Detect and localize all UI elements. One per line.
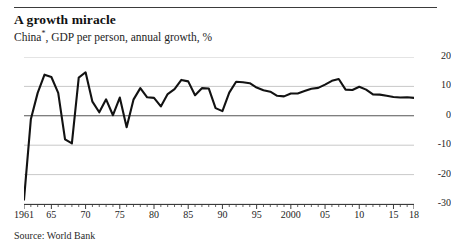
y-tick-label-20: 20 <box>415 51 451 61</box>
x-tick-label-1980: 80 <box>149 209 159 220</box>
x-tick-label-2000: 2000 <box>281 209 301 220</box>
x-tick-label-1970: 70 <box>81 209 91 220</box>
y-tick-label-10: 10 <box>415 80 451 90</box>
data-line-gdp-growth <box>24 72 414 199</box>
y-tick-label--30: -30 <box>415 198 451 208</box>
source-note: Source: World Bank <box>14 230 95 241</box>
plot-area <box>24 57 414 204</box>
y-tick-label-0: 0 <box>415 110 451 120</box>
chart-subtitle: China*, GDP per person, annual growth, % <box>14 29 212 43</box>
y-tick-label--10: -10 <box>415 139 451 149</box>
subtitle-measure: , GDP per person, annual growth, % <box>45 31 212 43</box>
x-tick-label-2010: 10 <box>354 209 364 220</box>
x-tick-label-1995: 95 <box>252 209 262 220</box>
x-tick-label-1975: 75 <box>115 209 125 220</box>
gridlines <box>24 57 414 204</box>
x-axis-labels: 196165707580859095200005101518 <box>0 209 451 225</box>
x-tick-label-1985: 85 <box>183 209 193 220</box>
y-tick-label--20: -20 <box>415 169 451 179</box>
x-tick-label-2015: 15 <box>388 209 398 220</box>
x-tick-label-2018: 18 <box>409 209 419 220</box>
line-chart-svg <box>24 57 414 204</box>
subtitle-region: China <box>14 31 41 43</box>
chart-figure: A growth miracle China*, GDP per person,… <box>0 0 451 250</box>
chart-title: A growth miracle <box>14 12 116 28</box>
x-tick-label-1990: 90 <box>217 209 227 220</box>
x-tick-label-2005: 05 <box>320 209 330 220</box>
x-tick-label-1961: 1961 <box>14 209 34 220</box>
x-tick-label-1965: 65 <box>46 209 56 220</box>
header-rule <box>14 7 437 8</box>
